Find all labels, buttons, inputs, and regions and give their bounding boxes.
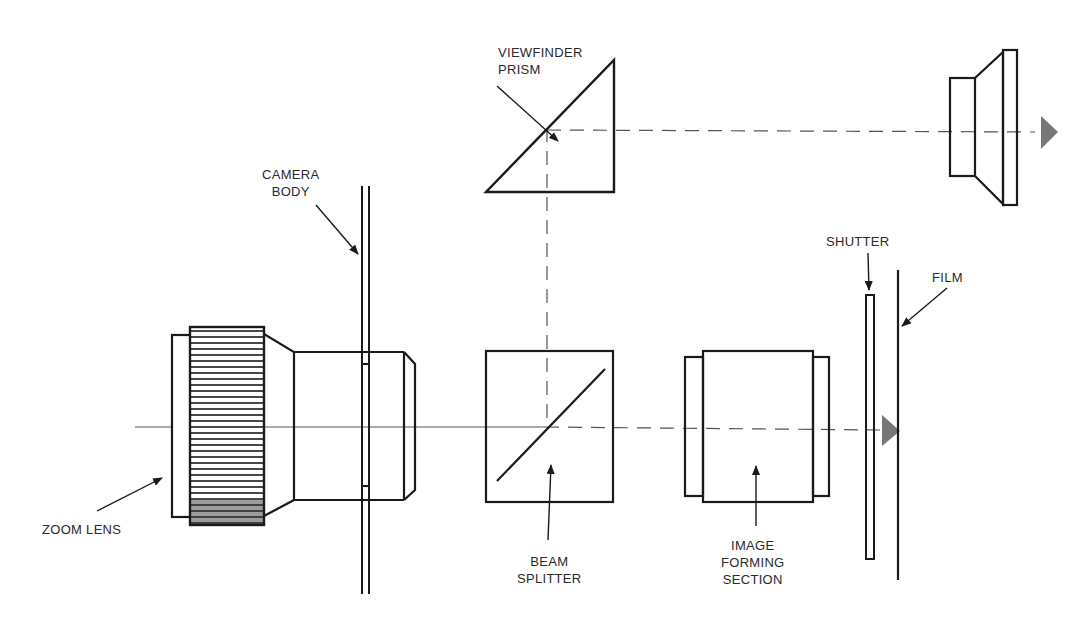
viewfinder-prism bbox=[486, 60, 614, 192]
zoom-leader-arrow-icon bbox=[97, 478, 162, 511]
diagram-canvas bbox=[0, 0, 1089, 630]
label-film: FILM bbox=[932, 269, 963, 286]
shutter bbox=[866, 295, 874, 559]
label-camera-body: CAMERA BODY bbox=[262, 166, 319, 200]
label-zoom-lens: ZOOM LENS bbox=[42, 521, 121, 538]
prism-leader-arrow-icon bbox=[497, 86, 558, 141]
film-leader-arrow-icon bbox=[902, 288, 947, 326]
label-image-forming-section: IMAGE FORMING SECTION bbox=[721, 537, 784, 588]
shutter-leader-arrow-icon bbox=[868, 253, 869, 290]
eyepiece-arrowhead-icon bbox=[1041, 116, 1058, 149]
label-shutter: SHUTTER bbox=[826, 233, 890, 250]
camera-optics-diagram: VIEWFINDER PRISM CAMERA BODY ZOOM LENS B… bbox=[0, 0, 1089, 630]
eyepiece-path bbox=[547, 130, 1035, 132]
label-beam-splitter: BEAM SPLITTER bbox=[517, 553, 582, 587]
camera-body bbox=[362, 186, 369, 594]
eyepiece bbox=[950, 50, 1017, 205]
zoom-lens bbox=[172, 327, 415, 525]
body-leader-arrow-icon bbox=[316, 205, 358, 254]
image-forming-section bbox=[685, 351, 829, 502]
label-viewfinder-prism: VIEWFINDER PRISM bbox=[498, 44, 583, 78]
